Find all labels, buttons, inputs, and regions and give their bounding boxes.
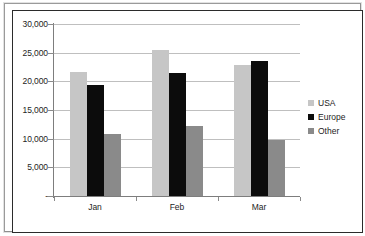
y-axis-tick-mark — [48, 110, 54, 111]
y-axis-tick-mark — [48, 139, 54, 140]
x-axis-tick-label: Mar — [218, 203, 300, 212]
bar-other-jan[interactable] — [104, 134, 121, 196]
y-axis-tick-label: 20,000 — [23, 77, 48, 86]
legend-swatch-icon — [308, 114, 314, 120]
y-axis-tick-mark — [48, 53, 54, 54]
y-axis-tick-label: 30,000 — [23, 20, 48, 29]
legend-item-label: Europe — [318, 113, 345, 122]
x-axis-tick-label: Jan — [54, 203, 136, 212]
legend-swatch-icon — [308, 100, 314, 106]
bar-usa-mar[interactable] — [234, 65, 251, 196]
y-axis-tick-mark — [48, 167, 54, 168]
x-axis-line — [47, 196, 300, 197]
legend-swatch-icon — [308, 128, 314, 134]
bar-usa-jan[interactable] — [70, 72, 87, 196]
x-axis-tick-mark — [218, 197, 219, 201]
bar-europe-feb[interactable] — [169, 73, 186, 196]
legend-item-usa[interactable]: USA — [308, 96, 356, 110]
plot-area — [54, 24, 300, 196]
bar-europe-mar[interactable] — [251, 61, 268, 196]
chart-outer-frame: -5,00010,00015,00020,00025,00030,000 USA… — [4, 3, 361, 232]
bar-group — [54, 24, 136, 196]
y-axis-tick-label: 25,000 — [23, 49, 48, 58]
chart-legend: USAEuropeOther — [308, 96, 356, 138]
y-axis-tick-label: 5,000 — [27, 163, 48, 172]
bar-group — [218, 24, 300, 196]
legend-item-label: USA — [318, 99, 335, 108]
y-axis-tick-label: 10,000 — [23, 135, 48, 144]
x-axis-tick-label: Feb — [136, 203, 218, 212]
x-axis-tick-mark — [136, 197, 137, 201]
y-axis-tick-label: 15,000 — [23, 106, 48, 115]
legend-item-europe[interactable]: Europe — [308, 110, 356, 124]
bar-usa-feb[interactable] — [152, 50, 169, 196]
bar-europe-jan[interactable] — [87, 85, 104, 196]
x-axis-tick-mark — [54, 197, 55, 201]
legend-item-other[interactable]: Other — [308, 124, 356, 138]
y-axis-labels: -5,00010,00015,00020,00025,00030,000 — [14, 4, 48, 236]
y-axis-tick-mark — [48, 81, 54, 82]
bar-group — [136, 24, 218, 196]
y-axis-tick-mark — [48, 24, 54, 25]
bar-other-mar[interactable] — [268, 140, 285, 196]
x-axis-tick-mark — [300, 197, 301, 201]
legend-item-label: Other — [318, 127, 339, 136]
bar-other-feb[interactable] — [186, 126, 203, 196]
